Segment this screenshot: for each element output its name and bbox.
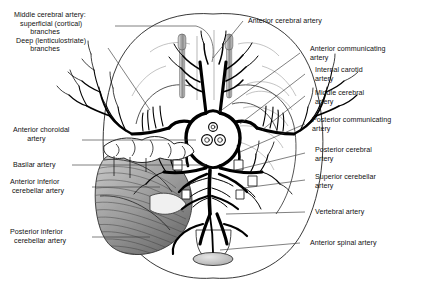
- label-superior-cerebellar-artery: Superior cerebellar artery: [315, 173, 419, 190]
- olfactory-tract-left: [178, 34, 186, 98]
- label-anterior-spinal-artery: Anterior spinal artery: [310, 239, 420, 248]
- label-basilar-artery: Basilar artery: [13, 161, 83, 170]
- label-middle-cerebral-artery: Middle cerebral artery: superficial (cor…: [14, 11, 114, 54]
- brain-arteries-figure: Middle cerebral artery: superficial (cor…: [0, 0, 426, 289]
- spinal-cord-cut-surface: [193, 253, 233, 266]
- label-posterior-cerebral-artery: Posterior cerebral artery: [315, 146, 417, 163]
- label-middle-cerebral-artery-right: Middle cerebral artery: [315, 89, 415, 106]
- label-posterior-communicating-artery: Posterior communicating artery: [312, 116, 426, 133]
- basilar-artery: [209, 170, 210, 214]
- label-vertebral-artery: Vertebral artery: [315, 208, 415, 217]
- label-anterior-communicating-artery: Anterior communicating artery: [310, 45, 422, 62]
- label-internal-carotid-artery: Internal carotid artery: [315, 66, 415, 83]
- label-posterior-inferior-cerebellar-artery: Posterior inferior cerebellar artery: [10, 228, 94, 245]
- label-anterior-cerebral-artery: Anterior cerebral artery: [248, 17, 368, 26]
- label-anterior-inferior-cerebellar-artery: Anterior inferior cerebellar artery: [10, 178, 92, 195]
- label-anterior-choroidal-artery: Anterior choroidal artery: [13, 126, 85, 143]
- olfactory-bulb-left: [178, 34, 186, 50]
